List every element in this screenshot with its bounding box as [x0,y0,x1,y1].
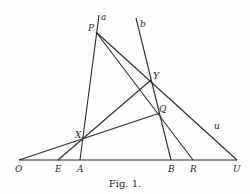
point-label-q: Q [159,104,167,114]
line-label-u: u [214,121,220,131]
point-label-p: P [87,23,95,33]
figure-canvas: PYQXOEABRU abu Fig. 1. [0,0,250,194]
figure-caption: Fig. 1. [109,178,141,189]
point-labels: PYQXOEABRU [15,23,241,174]
point-label-e: E [54,164,62,174]
point-label-u: U [233,164,241,174]
construction-lines [19,15,237,160]
line-OQ [19,113,160,160]
line-EY [58,80,151,160]
point-label-r: R [189,164,197,174]
point-label-a: A [76,164,84,174]
line-label-b: b [140,19,146,29]
line-label-a: a [101,12,106,22]
point-label-b: B [167,164,175,174]
geometry-diagram: PYQXOEABRU abu Fig. 1. [0,0,250,194]
point-label-o: O [15,164,23,174]
point-label-y: Y [153,71,160,81]
point-label-x: X [74,130,82,140]
